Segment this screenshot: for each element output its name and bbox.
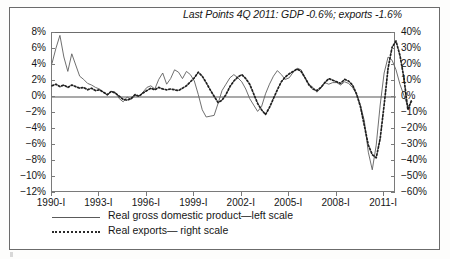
y-axis-right-tick-label: −50% — [401, 170, 443, 181]
y-axis-tick-mark — [51, 48, 55, 49]
y-axis-left-tick-label: 2% — [8, 74, 46, 85]
y-axis-right-tick-label: −20% — [401, 122, 443, 133]
y-axis-tick-mark — [391, 112, 395, 113]
y-axis-left-tick-label: 8% — [8, 26, 46, 37]
y-axis-left-tick-label: −4% — [8, 122, 46, 133]
x-axis-tick-label: 1996-I — [122, 197, 170, 208]
x-axis-tick-label: 2011-I — [359, 197, 407, 208]
chart-legend: Real gross domestic product—left scale R… — [30, 210, 360, 240]
y-axis-left-tick-label: −10% — [8, 170, 46, 181]
y-axis-left-tick-label: 4% — [8, 58, 46, 69]
y-axis-tick-mark — [391, 64, 395, 65]
y-axis-right-tick-label: 30% — [401, 42, 443, 53]
y-axis-tick-mark — [391, 32, 395, 33]
y-axis-tick-mark — [391, 96, 395, 97]
y-axis-left-tick-label: 6% — [8, 42, 46, 53]
series-line-gdp — [52, 35, 412, 169]
y-axis-tick-mark — [51, 32, 55, 33]
y-axis-right-tick-label: 40% — [401, 26, 443, 37]
chart-svg — [52, 33, 396, 193]
chart-title-annotation: Last Points 4Q 2011: GDP -0.6%; exports … — [150, 8, 435, 20]
y-axis-tick-mark — [51, 64, 55, 65]
x-axis-tick-mark — [241, 192, 242, 196]
x-axis-tick-mark — [193, 192, 194, 196]
legend-swatch-dotted-line — [52, 231, 100, 233]
y-axis-tick-mark — [51, 176, 55, 177]
y-axis-right-tick-label: 10% — [401, 74, 443, 85]
x-axis-tick-mark — [336, 192, 337, 196]
y-axis-tick-mark — [391, 128, 395, 129]
y-axis-right-tick-label: −60% — [401, 186, 443, 197]
y-axis-left-tick-label: −6% — [8, 138, 46, 149]
y-axis-tick-mark — [391, 176, 395, 177]
y-axis-tick-mark — [391, 48, 395, 49]
legend-swatch-solid-line — [52, 217, 100, 218]
x-axis-tick-label: 1990-I — [27, 197, 75, 208]
y-axis-tick-mark — [51, 144, 55, 145]
scan-artifact — [10, 252, 13, 257]
legend-item-exports: Real exports— right scale — [30, 225, 360, 240]
x-axis-tick-mark — [146, 192, 147, 196]
y-axis-tick-mark — [391, 192, 395, 193]
y-axis-right-tick-label: 0% — [401, 90, 443, 101]
y-axis-tick-mark — [51, 96, 55, 97]
x-axis-tick-label: 1999-I — [169, 197, 217, 208]
plot-area — [51, 32, 395, 192]
y-axis-tick-mark — [51, 112, 55, 113]
y-axis-right-tick-label: 20% — [401, 58, 443, 69]
y-axis-left-tick-label: −2% — [8, 106, 46, 117]
x-axis-tick-mark — [288, 192, 289, 196]
y-axis-tick-mark — [391, 144, 395, 145]
y-axis-tick-mark — [51, 192, 55, 193]
y-axis-tick-mark — [51, 128, 55, 129]
y-axis-right-tick-label: −40% — [401, 154, 443, 165]
chart-screenshot: Last Points 4Q 2011: GDP -0.6%; exports … — [0, 0, 450, 259]
legend-item-gdp: Real gross domestic product—left scale — [30, 210, 360, 225]
series-line-exports — [52, 41, 412, 158]
y-axis-tick-mark — [391, 80, 395, 81]
y-axis-right-tick-label: −30% — [401, 138, 443, 149]
legend-label-gdp: Real gross domestic product—left scale — [108, 209, 293, 221]
y-axis-left-tick-label: 0% — [8, 90, 46, 101]
x-axis-tick-label: 1993-I — [74, 197, 122, 208]
legend-label-exports: Real exports— right scale — [108, 224, 228, 236]
x-axis-tick-mark — [383, 192, 384, 196]
y-axis-tick-mark — [51, 80, 55, 81]
y-axis-tick-mark — [51, 160, 55, 161]
y-axis-left-tick-label: −12% — [8, 186, 46, 197]
x-axis-tick-label: 2002-I — [217, 197, 265, 208]
x-axis-tick-label: 2005-I — [264, 197, 312, 208]
x-axis-tick-mark — [98, 192, 99, 196]
y-axis-left-tick-label: −8% — [8, 154, 46, 165]
x-axis-tick-label: 2008-I — [312, 197, 360, 208]
y-axis-right-tick-label: −10% — [401, 106, 443, 117]
y-axis-tick-mark — [391, 160, 395, 161]
